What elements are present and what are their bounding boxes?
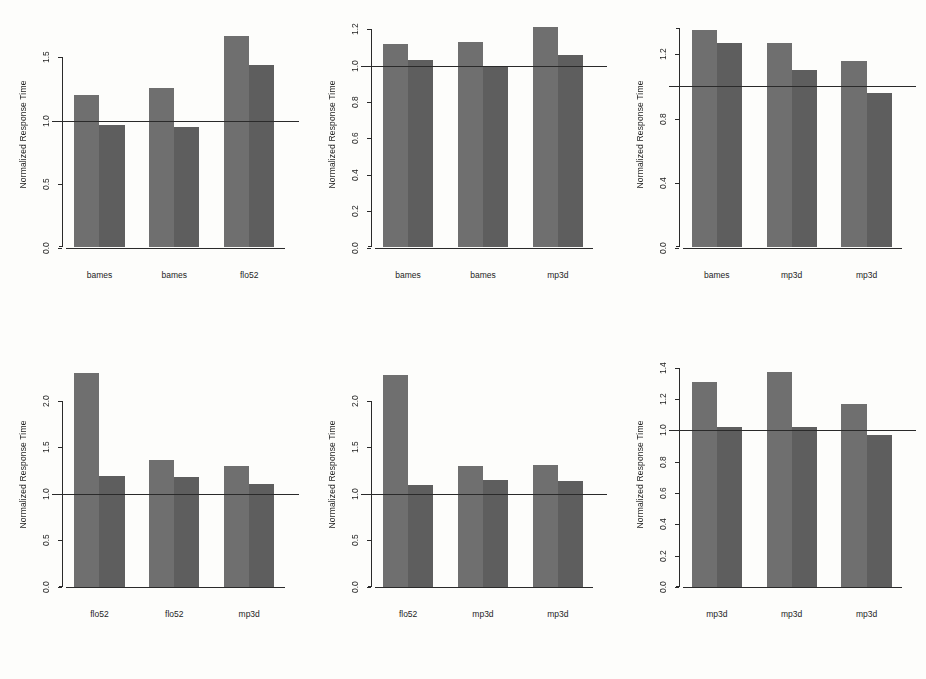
y-axis-tick (675, 183, 679, 184)
y-axis-tick (58, 57, 62, 58)
y-axis-tick-label: 1.2 (347, 16, 363, 42)
y-axis-tick-label: 0.5 (38, 171, 54, 197)
x-axis-category-label: flo52 (137, 609, 212, 619)
y-axis-tick-label: 0.5 (38, 527, 54, 553)
reference-line (361, 494, 608, 495)
y-axis-tick (675, 248, 679, 249)
x-axis-category-label: mp3d (679, 609, 754, 619)
chart-panel: Normalized Response Time0.00.20.40.60.81… (617, 340, 926, 679)
y-axis-tick-label: 0.5 (347, 527, 363, 553)
y-axis-tick (675, 462, 679, 463)
bar (224, 466, 249, 587)
x-axis-category-label: mp3d (212, 609, 287, 619)
y-axis-tick-label: 0.0 (347, 574, 363, 600)
y-axis-tick-label: 1.5 (38, 44, 54, 70)
y-axis-tick (675, 399, 679, 400)
x-axis-category-label: mp3d (754, 270, 829, 280)
bar (249, 484, 274, 587)
reference-line (52, 121, 299, 122)
y-axis-tick-label: 2.0 (38, 388, 54, 414)
y-axis-tick (58, 447, 62, 448)
y-axis-tick-label: 0.0 (655, 235, 671, 261)
y-axis-title: Normalized Response Time (327, 366, 337, 584)
y-axis-tick (58, 401, 62, 402)
y-axis-tick (367, 211, 371, 212)
bar (558, 481, 583, 587)
x-axis-line (66, 587, 285, 588)
x-axis-category-label: mp3d (829, 609, 904, 619)
bar (692, 382, 717, 587)
y-axis-tick-label: 1.4 (655, 355, 671, 381)
bar (533, 27, 558, 247)
y-axis-tick-label: 0.0 (38, 574, 54, 600)
y-axis-tick-label: 2.0 (347, 388, 363, 414)
y-axis-line (679, 28, 680, 247)
y-axis-tick (367, 175, 371, 176)
y-axis-line (679, 368, 680, 587)
bar (483, 66, 508, 248)
y-axis-tick-label: 0.4 (655, 170, 671, 196)
y-axis-tick (367, 540, 371, 541)
x-axis-category-label: bames (679, 270, 754, 280)
y-axis-title: Normalized Response Time (327, 26, 337, 244)
y-axis-tick (58, 184, 62, 185)
bar (224, 36, 249, 248)
bar (408, 60, 433, 247)
x-axis-line (683, 587, 902, 588)
y-axis-title: Normalized Response Time (18, 366, 28, 584)
x-axis-category-label: flo52 (212, 270, 287, 280)
y-axis-tick (675, 119, 679, 120)
x-axis-category-label: bames (137, 270, 212, 280)
bar (483, 480, 508, 587)
y-axis-tick (58, 248, 62, 249)
bar (792, 70, 817, 247)
x-axis-category-label: bames (446, 270, 521, 280)
chart-panel: Normalized Response Time0.00.51.01.52.0f… (0, 340, 309, 679)
y-axis-tick (675, 368, 679, 369)
bar (74, 373, 99, 587)
y-axis-line (371, 29, 372, 247)
bar (558, 55, 583, 248)
bar (149, 460, 174, 587)
y-axis-tick-label: 0.0 (347, 235, 363, 261)
bar (867, 93, 892, 248)
y-axis-tick (367, 248, 371, 249)
bar (99, 125, 124, 248)
y-axis-tick (675, 54, 679, 55)
bar (458, 466, 483, 587)
x-axis-category-label: bames (371, 270, 446, 280)
y-axis-line (62, 57, 63, 247)
bar (174, 127, 199, 247)
y-axis-tick (367, 447, 371, 448)
x-axis-category-label: mp3d (446, 609, 521, 619)
reference-line (361, 66, 608, 67)
y-axis-title: Normalized Response Time (18, 26, 28, 244)
y-axis-tick-label: 1.5 (38, 434, 54, 460)
x-axis-category-label: flo52 (371, 609, 446, 619)
y-axis-tick-label: 1.5 (347, 434, 363, 460)
reference-line (669, 430, 916, 431)
y-axis-tick-label: 0.8 (655, 449, 671, 475)
bar (767, 372, 792, 587)
y-axis-tick-label: 1.2 (655, 386, 671, 412)
bar (99, 476, 124, 587)
x-axis-line (66, 248, 285, 249)
chart-panel: Normalized Response Time0.00.20.40.60.81… (309, 0, 618, 340)
chart-panel: Normalized Response Time0.00.51.01.5bame… (0, 0, 309, 340)
y-axis-tick (675, 493, 679, 494)
x-axis-category-label: mp3d (754, 609, 829, 619)
y-axis-tick-label: 0.2 (655, 543, 671, 569)
bar (841, 61, 866, 248)
bar (249, 65, 274, 247)
y-axis-tick (367, 29, 371, 30)
y-axis-tick-label: 0.2 (347, 198, 363, 224)
x-axis-line (375, 248, 594, 249)
chart-panel: Normalized Response Time0.00.40.81.2bame… (617, 0, 926, 340)
chart-panel: Normalized Response Time0.00.51.01.52.0f… (309, 340, 618, 679)
y-axis-tick (58, 540, 62, 541)
bar (149, 88, 174, 248)
bar (383, 375, 408, 587)
x-axis-line (375, 587, 594, 588)
y-axis-tick-label: 0.4 (655, 511, 671, 537)
y-axis-tick-label: 0.4 (347, 162, 363, 188)
